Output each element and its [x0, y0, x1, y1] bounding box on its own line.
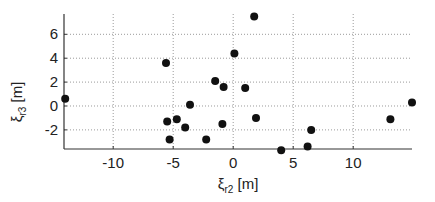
data-point: [386, 115, 394, 123]
x-tick-label: 0: [229, 154, 237, 171]
data-point: [181, 123, 189, 131]
data-point: [250, 12, 258, 20]
y-tick-label: 0: [50, 97, 58, 114]
data-points: [61, 12, 416, 154]
x-tick-labels: -10-50510: [102, 154, 361, 171]
scatter-chart: -10-50510 -20246 ξr2 [m] ξr3 [m]: [0, 0, 435, 202]
data-point: [211, 77, 219, 85]
y-tick-label: 4: [50, 49, 58, 66]
y-tick-label: -2: [45, 121, 58, 138]
y-tick-labels: -20246: [45, 25, 58, 138]
x-tick-label: 5: [289, 154, 297, 171]
y-axis-label: ξr3 [m]: [8, 82, 28, 123]
data-point: [408, 98, 416, 106]
data-point: [252, 114, 260, 122]
data-point: [166, 135, 174, 143]
data-point: [173, 115, 181, 123]
x-tick-label: -10: [102, 154, 124, 171]
data-point: [163, 118, 171, 126]
x-tick-label: -5: [167, 154, 180, 171]
data-point: [304, 143, 312, 151]
y-tick-label: 2: [50, 73, 58, 90]
data-point: [241, 84, 249, 92]
data-point: [162, 59, 170, 67]
data-point: [202, 135, 210, 143]
y-tick-label: 6: [50, 25, 58, 42]
x-tick-label: 10: [345, 154, 362, 171]
data-point: [220, 83, 228, 91]
data-point: [230, 49, 238, 57]
data-point: [218, 120, 226, 128]
data-point: [307, 126, 315, 134]
data-point: [186, 101, 194, 109]
data-point: [277, 146, 285, 154]
x-axis-label: ξr2 [m]: [218, 175, 259, 195]
data-point: [61, 95, 69, 103]
grid-lines: [64, 14, 412, 149]
